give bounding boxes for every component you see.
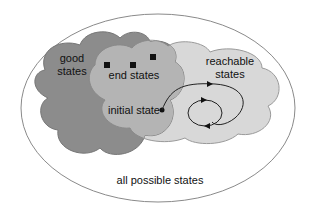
good-states-label: good states: [52, 52, 92, 78]
end-states-label: end states: [104, 69, 164, 82]
state-space-diagram: good states end states reachable states …: [0, 0, 309, 205]
end-state-marker: [104, 62, 110, 68]
all-possible-states-label: all possible states: [110, 174, 210, 187]
end-state-marker: [130, 62, 136, 68]
reachable-states-line1: reachable: [200, 55, 260, 68]
initial-state-label: initial state: [105, 104, 160, 117]
reachable-states-line2: states: [200, 68, 260, 81]
good-states-line2: states: [52, 65, 92, 78]
good-states-line1: good: [52, 52, 92, 65]
reachable-states-label: reachable states: [200, 55, 260, 81]
end-state-marker: [150, 54, 156, 60]
